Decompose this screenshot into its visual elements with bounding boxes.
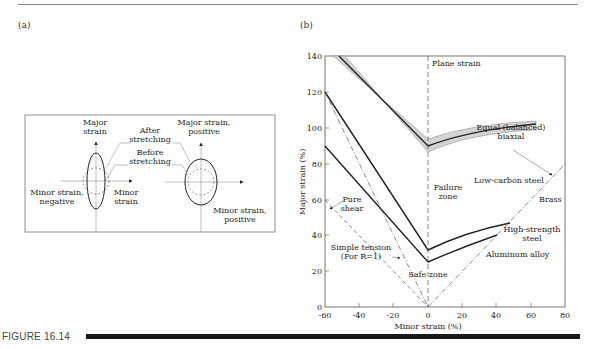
svg-text:0: 0	[425, 311, 430, 320]
annotation-simple-tension-2: (For R=1)	[341, 252, 381, 261]
annotation-low-carbon-steel: Low-carbon steel	[474, 176, 544, 185]
chart-b: -60 -40 -20 0 20 40 60 80 0 20 40 60 80 …	[298, 52, 570, 331]
svg-text:80: 80	[560, 311, 570, 320]
y-ticks	[325, 92, 329, 271]
annotation-pure-shear: Pure	[342, 195, 361, 204]
leader-simple-tension	[392, 257, 400, 258]
annotation-simple-tension: Simple tension	[331, 243, 391, 252]
svg-text:20: 20	[457, 311, 467, 320]
label-before-2: stretching	[129, 157, 171, 166]
svg-text:-60: -60	[319, 311, 332, 320]
x-ticks	[359, 303, 531, 307]
annotation-high-strength-steel-2: steel	[522, 234, 542, 243]
caption-bar	[86, 334, 580, 339]
label-minor-pos: Minor strain,	[213, 206, 266, 215]
label-major-pos-2: positive	[188, 127, 220, 136]
label-minor-neg-2: negative	[40, 197, 75, 206]
label-minor-neg: Minor strain,	[30, 188, 83, 197]
label-after-2: stretching	[129, 135, 171, 144]
svg-text:-20: -20	[387, 311, 400, 320]
y-tick-labels: 0 20 40 60 80 100 120 140	[307, 52, 322, 312]
figure-canvas: Major strain After stretching Before str…	[0, 0, 590, 349]
annotation-safe-zone: Safe zone	[408, 270, 448, 279]
y-axis-label: Major strain (%)	[298, 149, 307, 216]
svg-text:40: 40	[312, 231, 322, 240]
annotation-plane-strain: Plane strain	[432, 59, 481, 68]
x-axis-label: Minor strain (%)	[394, 322, 461, 331]
label-major-strain-2: strain	[83, 127, 107, 136]
label-after: After	[139, 126, 161, 135]
label-major-pos: Major strain,	[178, 118, 231, 127]
leader-before-left	[106, 165, 128, 180]
svg-text:40: 40	[491, 311, 501, 320]
leader-after-left	[106, 143, 131, 168]
annotation-pure-shear-2: shear	[341, 204, 364, 213]
label-minor-pos-2: positive	[224, 215, 256, 224]
label-minor: Minor	[114, 188, 139, 197]
label-before: Before	[137, 148, 164, 157]
high-strength-steel-curve	[325, 92, 510, 250]
annotation-high-strength-steel: High-strength	[503, 225, 560, 234]
svg-text:140: 140	[307, 52, 322, 61]
leader-equal-biaxial	[513, 150, 552, 175]
x-tick-labels: -60 -40 -20 0 20 40 60 80	[319, 311, 571, 320]
svg-text:0: 0	[317, 303, 322, 312]
svg-text:20: 20	[312, 267, 322, 276]
annotation-equal-biaxial: Equal (balanced)	[477, 123, 546, 132]
figure-caption: FIGURE 16.14	[2, 331, 70, 342]
svg-text:80: 80	[312, 160, 322, 169]
svg-text:60: 60	[526, 311, 536, 320]
diagram-a: Major strain After stretching Before str…	[25, 115, 275, 232]
label-minor-2: strain	[114, 197, 138, 206]
annotation-equal-biaxial-2: biaxial	[498, 132, 525, 141]
label-major-strain: Major	[83, 118, 107, 127]
svg-text:60: 60	[312, 196, 322, 205]
svg-text:120: 120	[307, 88, 322, 97]
annotation-failure-zone: Failure	[434, 183, 463, 192]
svg-text:100: 100	[307, 124, 322, 133]
annotation-aluminum-alloy: Aluminum alloy	[485, 250, 550, 259]
svg-text:-40: -40	[353, 311, 366, 320]
annotation-failure-zone-2: zone	[439, 192, 458, 201]
annotation-brass: Brass	[539, 195, 562, 204]
leader-after-right	[173, 143, 190, 162]
